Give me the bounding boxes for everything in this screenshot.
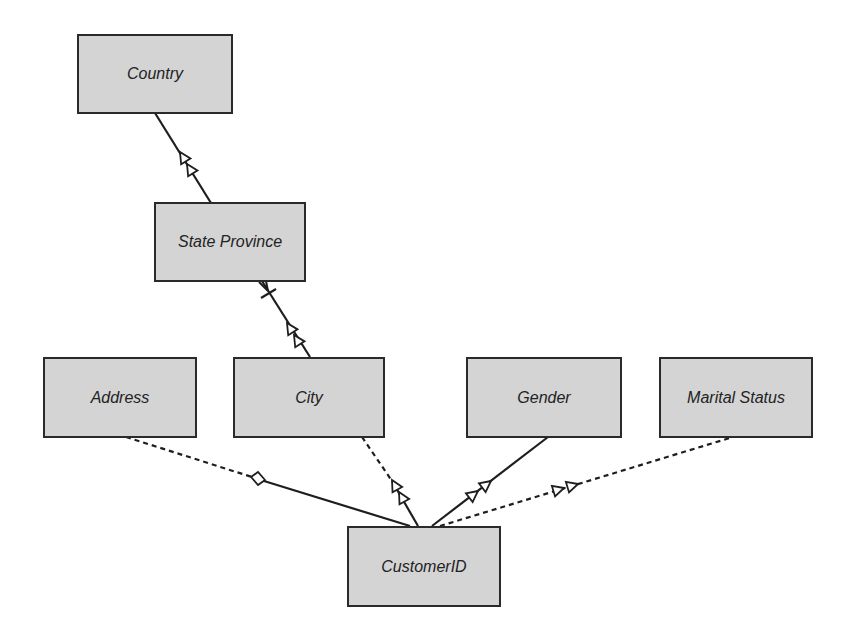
node-address[interactable]: Address (43, 357, 197, 438)
node-label: State Province (178, 233, 282, 251)
node-state-province[interactable]: State Province (154, 202, 306, 282)
node-gender[interactable]: Gender (466, 357, 622, 438)
node-label: CustomerID (381, 558, 466, 576)
double-arrow-icon (387, 477, 409, 504)
node-label: Marital Status (687, 389, 785, 407)
edge-city-to-state (259, 281, 310, 357)
double-arrow-icon (282, 320, 304, 347)
edge-customer-to-gender (432, 437, 548, 526)
edge-state-to-country (155, 113, 211, 203)
node-customer-id[interactable]: CustomerID (347, 526, 501, 607)
double-arrow-icon (175, 149, 197, 176)
node-country[interactable]: Country (77, 34, 233, 114)
node-label: City (295, 389, 323, 407)
node-label: Country (127, 65, 183, 83)
node-label: Address (91, 389, 150, 407)
node-city[interactable]: City (233, 357, 385, 438)
diamond-icon (251, 472, 265, 485)
edge-customer-to-address (126, 437, 410, 526)
crows-foot-icon (259, 281, 276, 298)
node-marital-status[interactable]: Marital Status (659, 357, 813, 438)
node-label: Gender (517, 389, 570, 407)
double-arrow-icon (552, 479, 580, 497)
